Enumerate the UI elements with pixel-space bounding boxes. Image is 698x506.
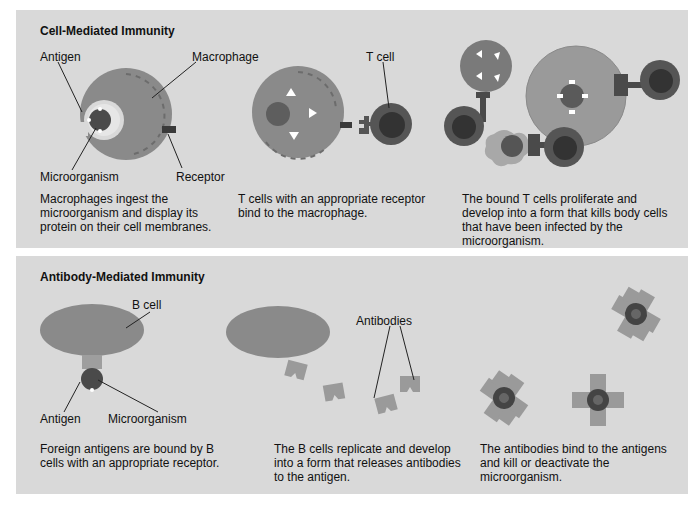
- label-antigen: Antigen: [40, 50, 81, 64]
- label-microorganism: Microorganism: [108, 412, 187, 426]
- caption-am-2: The B cells replicate and develop into a…: [274, 442, 464, 484]
- microorganism-icon: [81, 368, 103, 392]
- label-t-cell: T cell: [366, 50, 394, 64]
- receptor-icon: [162, 126, 176, 133]
- b-cell-receptor-icon: [82, 355, 102, 369]
- killed-cell-icon: [485, 127, 584, 167]
- label-macrophage: Macrophage: [192, 50, 259, 64]
- antibody-complex-icon: [572, 374, 624, 426]
- b-cell-icon: [40, 304, 144, 356]
- caption-cm-1: Macrophages ingest the microorganism and…: [40, 192, 220, 234]
- infected-cell-small-icon: [444, 40, 512, 146]
- label-antigen: Antigen: [40, 412, 81, 426]
- label-b-cell: B cell: [132, 298, 161, 312]
- cell-mediated-panel: Cell-Mediated Immunity: [16, 10, 688, 248]
- label-receptor: Receptor: [176, 170, 225, 184]
- label-microorganism: Microorganism: [40, 170, 119, 184]
- caption-cm-2: T cells with an appropriate receptor bin…: [238, 192, 448, 220]
- infected-cell-large-icon: [526, 46, 680, 146]
- antibody-complex-icon: [471, 365, 538, 432]
- label-antibodies: Antibodies: [356, 314, 412, 328]
- macrophage-icon: [58, 68, 172, 160]
- caption-am-1: Foreign antigens are bound by B cells wi…: [40, 442, 220, 470]
- caption-cm-3: The bound T cells proliferate and develo…: [462, 192, 682, 248]
- caption-am-3: The antibodies bind to the antigens and …: [480, 442, 684, 484]
- antibody-mediated-panel: Antibody-Mediated Immunity: [16, 256, 688, 494]
- b-cell-replicated-icon: [226, 306, 330, 358]
- t-cell-icon: [354, 103, 412, 145]
- antibody-icons: [284, 360, 420, 415]
- macrophage-presenting-icon: [252, 66, 352, 159]
- antibody-complex-icon: [603, 281, 669, 347]
